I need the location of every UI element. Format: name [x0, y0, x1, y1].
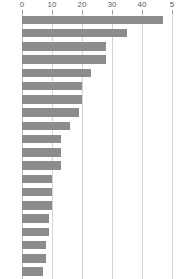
- bar-row: [0, 120, 176, 133]
- bar[interactable]: [22, 161, 61, 170]
- bar[interactable]: [22, 122, 70, 131]
- bar-row: [0, 54, 176, 67]
- bar[interactable]: [22, 29, 127, 38]
- bar-row: [0, 266, 176, 279]
- bar-row: [0, 133, 176, 146]
- bar-row: [0, 213, 176, 226]
- x-axis-tick-label: 0: [20, 0, 24, 10]
- x-axis: 0102030405: [0, 0, 176, 14]
- bar-row: [0, 186, 176, 199]
- bar[interactable]: [22, 228, 49, 237]
- bar-row: [0, 173, 176, 186]
- bar-row: [0, 147, 176, 160]
- bar-row: [0, 27, 176, 40]
- bar-row: [0, 160, 176, 173]
- bar-chart: 0102030405: [0, 0, 176, 279]
- bar[interactable]: [22, 175, 52, 184]
- bar-row: [0, 80, 176, 93]
- bar[interactable]: [22, 241, 46, 250]
- bar-row: [0, 226, 176, 239]
- bar-row: [0, 239, 176, 252]
- bar[interactable]: [22, 135, 61, 144]
- plot-area: [0, 14, 176, 279]
- bar[interactable]: [22, 254, 46, 263]
- x-axis-tick-label: 20: [78, 0, 87, 10]
- bar-row: [0, 94, 176, 107]
- bar[interactable]: [22, 148, 61, 157]
- x-axis-tick-label: 10: [48, 0, 57, 10]
- bar-row: [0, 14, 176, 27]
- bar[interactable]: [22, 188, 52, 197]
- bar[interactable]: [22, 201, 52, 210]
- bar-row: [0, 41, 176, 54]
- bar-row: [0, 67, 176, 80]
- x-axis-tick-label: 40: [138, 0, 147, 10]
- bar[interactable]: [22, 55, 106, 64]
- x-axis-tick-label: 5: [170, 0, 174, 10]
- bar-row: [0, 107, 176, 120]
- bars-layer: [0, 14, 176, 279]
- bar[interactable]: [22, 69, 91, 78]
- bar[interactable]: [22, 214, 49, 223]
- x-axis-tick-label: 30: [108, 0, 117, 10]
- bar[interactable]: [22, 267, 43, 276]
- bar-row: [0, 253, 176, 266]
- bar[interactable]: [22, 16, 163, 25]
- bar[interactable]: [22, 42, 106, 51]
- bar[interactable]: [22, 95, 82, 104]
- bar-row: [0, 200, 176, 213]
- bar[interactable]: [22, 108, 79, 117]
- bar[interactable]: [22, 82, 82, 91]
